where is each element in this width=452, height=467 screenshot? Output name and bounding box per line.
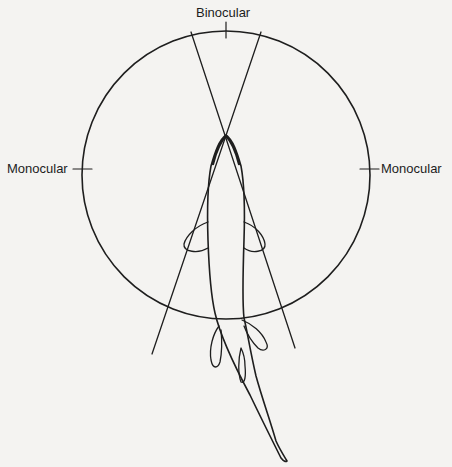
monocular-right-label: Monocular bbox=[381, 162, 442, 176]
binocular-label: Binocular bbox=[196, 6, 250, 20]
fish-body-outline bbox=[208, 135, 287, 462]
visual-field-diagram bbox=[0, 0, 452, 467]
visual-field-circle bbox=[82, 31, 370, 319]
monocular-left-label: Monocular bbox=[7, 162, 68, 176]
fish-anal-fin bbox=[239, 348, 246, 382]
